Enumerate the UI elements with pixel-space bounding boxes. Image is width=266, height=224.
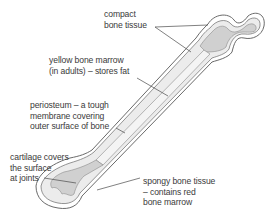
label-line: periosteum – a tough — [30, 100, 109, 111]
leader-spongy — [97, 178, 140, 190]
label-line: membrane covering — [30, 111, 109, 122]
label-line: cartilage covers — [10, 152, 69, 163]
label-spongy-bone-tissue: spongy bone tissue – contains red bone m… — [143, 176, 215, 208]
leader-compact-1 — [155, 25, 208, 27]
label-line: – contains red — [143, 187, 215, 198]
label-periosteum: periosteum – a tough membrane covering o… — [30, 100, 109, 132]
label-cartilage: cartilage covers the surface at joints — [10, 152, 69, 184]
label-line: bone tissue — [104, 20, 147, 31]
label-line: spongy bone tissue — [143, 176, 215, 187]
label-line: (in adults) – stores fat — [49, 66, 129, 77]
bone-diagram: compact bone tissue yellow bone marrow (… — [0, 0, 266, 224]
label-line: bone marrow — [143, 197, 215, 208]
leader-compact-2 — [155, 27, 191, 52]
label-line: outer surface of bone — [30, 121, 109, 132]
label-compact-bone-tissue: compact bone tissue — [104, 9, 147, 30]
label-line: yellow bone marrow — [49, 55, 129, 66]
label-yellow-bone-marrow: yellow bone marrow (in adults) – stores … — [49, 55, 129, 76]
label-line: at joints — [10, 173, 69, 184]
label-line: compact — [104, 9, 147, 20]
label-line: the surface — [10, 163, 69, 174]
